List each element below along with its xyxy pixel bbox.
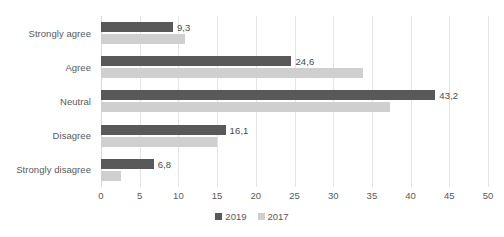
plot-area: 9,3 24,6 43,2 bbox=[101, 16, 488, 187]
value-axis-tick-label: 35 bbox=[367, 190, 378, 201]
bar-wrap-2019: 6,8 bbox=[101, 159, 488, 169]
legend-swatch-icon bbox=[258, 213, 265, 220]
bar-group-disagree: 16,1 bbox=[101, 119, 488, 153]
value-axis-tick-label: 0 bbox=[98, 190, 103, 201]
bar-group-strongly-agree: 9,3 bbox=[101, 16, 488, 50]
legend-label: 2017 bbox=[268, 211, 289, 222]
bar-group-neutral: 43,2 bbox=[101, 84, 488, 118]
chart-legend: 2019 2017 bbox=[0, 211, 504, 222]
category-axis-label: Agree bbox=[65, 50, 91, 84]
bar-2019[interactable] bbox=[101, 22, 173, 32]
gridline bbox=[488, 16, 489, 187]
bar-data-label-2019: 43,2 bbox=[435, 90, 458, 101]
value-axis-tick-label: 40 bbox=[405, 190, 416, 201]
value-axis: 05101520253035404550 bbox=[101, 190, 488, 204]
bar-2019[interactable] bbox=[101, 125, 226, 135]
bar-2019[interactable] bbox=[101, 90, 435, 100]
bar-group-strongly-disagree: 6,8 bbox=[101, 153, 488, 187]
legend-label: 2019 bbox=[225, 211, 246, 222]
bar-wrap-2017 bbox=[101, 171, 488, 181]
bar-2017[interactable] bbox=[101, 34, 185, 44]
bar-chart: Strongly agree Agree Neutral Disagree St… bbox=[0, 0, 504, 237]
value-axis-tick-label: 30 bbox=[328, 190, 339, 201]
bar-data-label-2019: 16,1 bbox=[226, 124, 249, 135]
legend-item-2017[interactable]: 2017 bbox=[258, 211, 289, 222]
value-axis-tick-label: 45 bbox=[444, 190, 455, 201]
bar-wrap-2019: 43,2 bbox=[101, 90, 488, 100]
bar-2019[interactable] bbox=[101, 159, 154, 169]
value-axis-tick-label: 50 bbox=[483, 190, 494, 201]
value-axis-tick-label: 20 bbox=[251, 190, 262, 201]
bar-data-label-2019: 24,6 bbox=[291, 56, 314, 67]
value-axis-tick-label: 5 bbox=[137, 190, 142, 201]
bar-wrap-2019: 16,1 bbox=[101, 125, 488, 135]
bar-wrap-2017 bbox=[101, 68, 488, 78]
bar-data-label-2019: 6,8 bbox=[154, 158, 172, 169]
category-axis-label: Strongly disagree bbox=[16, 153, 91, 187]
bar-wrap-2017 bbox=[101, 137, 488, 147]
legend-item-2019[interactable]: 2019 bbox=[215, 211, 246, 222]
bar-wrap-2019: 9,3 bbox=[101, 22, 488, 32]
category-axis-label: Strongly agree bbox=[29, 16, 92, 50]
bar-wrap-2019: 24,6 bbox=[101, 56, 488, 66]
bar-wrap-2017 bbox=[101, 34, 488, 44]
value-axis-tick-label: 10 bbox=[173, 190, 184, 201]
category-axis-label: Disagree bbox=[53, 119, 91, 153]
bar-2019[interactable] bbox=[101, 56, 291, 66]
category-axis: Strongly agree Agree Neutral Disagree St… bbox=[0, 16, 96, 187]
bar-2017[interactable] bbox=[101, 171, 121, 181]
bar-rows: 9,3 24,6 43,2 bbox=[101, 16, 488, 187]
category-axis-label: Neutral bbox=[60, 84, 91, 118]
bar-2017[interactable] bbox=[101, 68, 363, 78]
legend-swatch-icon bbox=[215, 213, 222, 220]
value-axis-tick-label: 25 bbox=[289, 190, 300, 201]
bar-wrap-2017 bbox=[101, 102, 488, 112]
bar-data-label-2019: 9,3 bbox=[173, 22, 191, 33]
bar-group-agree: 24,6 bbox=[101, 50, 488, 84]
bar-2017[interactable] bbox=[101, 137, 217, 147]
bar-2017[interactable] bbox=[101, 102, 390, 112]
value-axis-tick-label: 15 bbox=[212, 190, 223, 201]
